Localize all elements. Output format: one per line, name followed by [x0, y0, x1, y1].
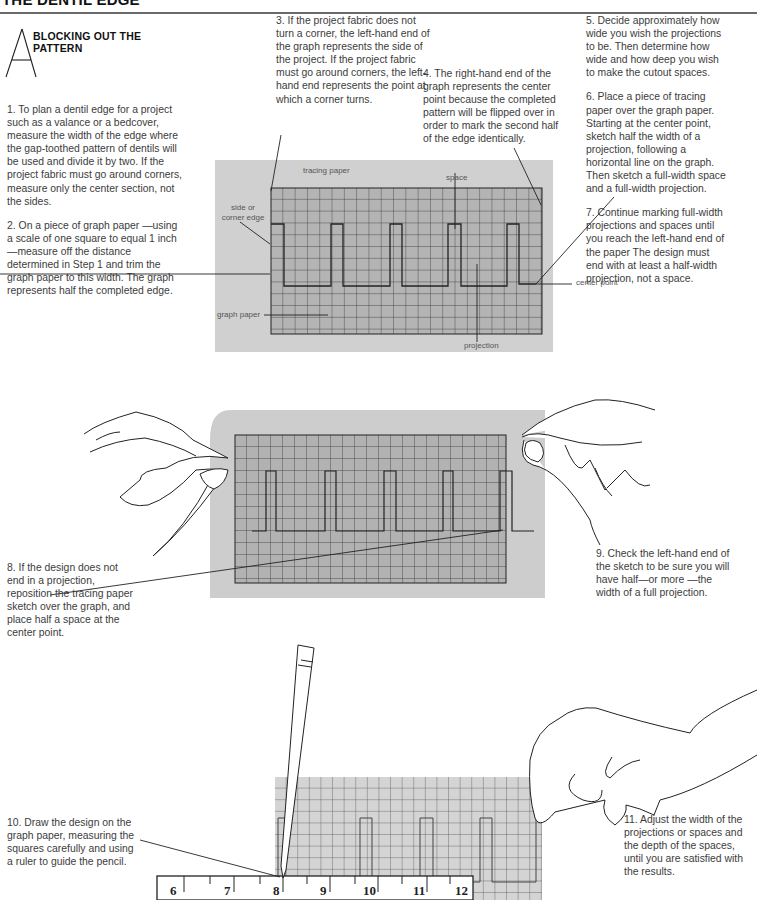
ruler-number-7: 7	[224, 883, 231, 899]
step-7: 7. Continue marking full-width projectio…	[586, 206, 726, 285]
ruler-number-11: 11	[413, 883, 425, 899]
step-10: 10. Draw the design on the graph paper, …	[7, 816, 137, 868]
step-5: 5. Decide approximately how wide you wis…	[586, 14, 726, 79]
step-4: 4. The right-hand end of the graph repre…	[423, 67, 568, 146]
step-8: 8. If the design does not end in a proje…	[7, 561, 137, 640]
ruler-number-12: 12	[455, 883, 468, 899]
ruler-number-9: 9	[320, 883, 327, 899]
label-tracing-paper: tracing paper	[303, 166, 350, 175]
column-left-top: 1. To plan a dentil edge for a project s…	[7, 103, 182, 308]
label-projection: projection	[464, 341, 499, 350]
label-graph-paper: graph paper	[217, 310, 260, 319]
step-9: 9. Check the left-hand end of the sketch…	[596, 547, 736, 599]
column-right-top: 5. Decide approximately how wide you wis…	[586, 14, 726, 296]
label-space: space	[446, 173, 467, 182]
ruler-number-6: 6	[170, 883, 177, 899]
step-11: 11. Adjust the width of the projections …	[624, 813, 754, 878]
ruler-number-10: 10	[363, 883, 376, 899]
section-heading: BLOCKING OUT THE PATTERN	[33, 30, 163, 54]
label-side-or-corner-edge: side or corner edge	[218, 203, 268, 223]
step-3: 3. If the project fabric does not turn a…	[276, 14, 431, 106]
step-2: 2. On a piece of graph paper —using a sc…	[7, 219, 182, 298]
step-1: 1. To plan a dentil edge for a project s…	[7, 103, 182, 208]
page-title: THE DENTIL EDGE	[2, 0, 140, 8]
ruler-number-8: 8	[273, 883, 280, 899]
label-center-point: center point	[576, 278, 618, 287]
step-6: 6. Place a piece of tracing paper over t…	[586, 90, 726, 195]
